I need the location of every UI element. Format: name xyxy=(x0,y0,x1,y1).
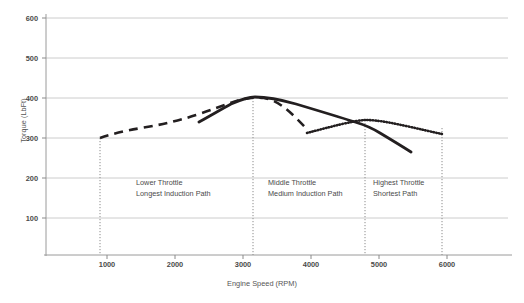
chart-plot xyxy=(0,0,524,303)
y-tick-marks xyxy=(42,18,46,218)
gridlines xyxy=(46,18,508,218)
x-tick-marks xyxy=(107,255,447,259)
series-highest-throttle xyxy=(307,120,442,134)
chart-canvas: Torque (LbFt) Engine Speed (RPM) 600 500… xyxy=(0,0,524,303)
series-middle-throttle xyxy=(199,97,411,152)
region-dividers xyxy=(100,98,442,255)
